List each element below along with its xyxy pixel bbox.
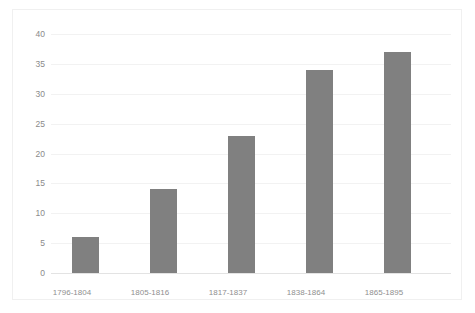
y-axis: 40 35 30 25 20 15 10 5 0 <box>13 34 45 273</box>
y-axis-tick-label: 20 <box>19 149 45 158</box>
x-axis-tick-label: 1805-1816 <box>110 289 190 297</box>
x-axis-tick-label: 1838-1864 <box>266 289 346 297</box>
plot-area <box>51 34 451 273</box>
y-axis-tick-label: 25 <box>19 119 45 128</box>
y-axis-tick-label: 15 <box>19 179 45 188</box>
bar <box>150 189 177 273</box>
x-axis-tick-label: 1817-1837 <box>188 289 268 297</box>
y-axis-tick-label: 30 <box>19 90 45 99</box>
y-axis-tick-label: 5 <box>19 239 45 248</box>
bar-chart: 40 35 30 25 20 15 10 5 0 1796-1804 1805-… <box>12 9 462 300</box>
bar <box>228 136 255 273</box>
y-axis-tick-label: 40 <box>19 30 45 39</box>
y-axis-tick-label: 0 <box>19 269 45 278</box>
bar <box>72 237 99 273</box>
x-axis-tick-label: 1865-1895 <box>344 289 424 297</box>
x-axis-tick-label: 1796-1804 <box>32 289 112 297</box>
bar <box>384 52 411 273</box>
gridline <box>51 34 451 35</box>
bar <box>306 70 333 273</box>
y-axis-tick-label: 35 <box>19 60 45 69</box>
y-axis-tick-label: 10 <box>19 209 45 218</box>
axis-baseline <box>51 273 451 274</box>
